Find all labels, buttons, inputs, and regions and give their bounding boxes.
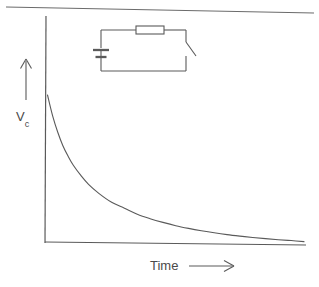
y-axis-label-subscript: c <box>25 119 30 129</box>
x-axis-label: Time <box>150 259 178 272</box>
top-divider-line <box>6 7 314 13</box>
exponential-decay-curve <box>48 95 305 242</box>
x-axis-line <box>45 242 306 245</box>
switch-blade-icon <box>186 42 196 56</box>
rc-circuit-diagram <box>93 26 196 71</box>
rc-discharge-figure <box>0 0 319 287</box>
y-axis-line <box>45 16 46 243</box>
y-axis-label: Vc <box>16 110 29 127</box>
resistor-icon <box>136 26 164 34</box>
figure-container: Vc Time <box>0 0 319 287</box>
x-axis-arrow-icon <box>189 261 234 272</box>
y-axis-label-text: V <box>16 109 25 124</box>
y-axis-arrow-icon <box>21 59 32 100</box>
axes-group <box>45 16 306 245</box>
